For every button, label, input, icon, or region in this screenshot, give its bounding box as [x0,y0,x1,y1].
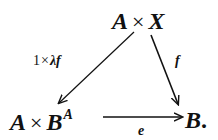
arrow-f [151,35,178,104]
exponent-a: A [63,107,72,122]
arrow-1xlambdaf [59,32,134,103]
node-b: B [185,107,201,133]
period: . [201,107,207,133]
label-f: f [175,54,180,68]
times-symbol: × [132,9,144,34]
label-1xlambdaf: 1×λf [33,54,61,68]
label-one: 1 [33,53,40,68]
commutative-diagram: A×X A×BA B. 1×λf f e [0,0,218,140]
node-a: A [10,109,26,135]
label-e: e [138,124,144,138]
label-times: × [41,53,49,68]
node-b: B [46,109,62,135]
node-b-final: B. [185,108,207,132]
node-a-times-b-to-a: A×BA [10,108,73,134]
node-a: A [112,8,128,34]
node-a-times-x: A×X [112,9,164,33]
node-x: X [148,8,164,34]
label-lambda-f: λf [50,53,61,68]
times-symbol: × [30,110,42,135]
